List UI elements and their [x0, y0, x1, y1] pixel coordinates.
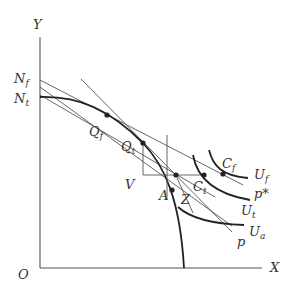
- trade-diagram: Y X O Nf Nt Qf Qt V A Z Ct Cf Uf p* Ut U…: [0, 0, 285, 290]
- label-a: A: [158, 188, 168, 203]
- label-q-t: Qt: [121, 139, 136, 156]
- label-v: V: [125, 177, 136, 192]
- label-u-t: Ut: [241, 203, 256, 220]
- label-c-t: Ct: [193, 179, 207, 196]
- label-q-f: Qf: [89, 124, 105, 141]
- x-axis-label: X: [269, 260, 280, 275]
- point-c-t: [201, 172, 206, 177]
- point-q-f: [104, 112, 109, 117]
- label-c-f: Cf: [222, 156, 237, 173]
- label-p-star: p*: [254, 186, 269, 201]
- indifference-curve-u-a: [178, 207, 244, 225]
- point-c-f: [220, 171, 225, 176]
- label-n-t: Nt: [13, 91, 29, 108]
- origin-label: O: [18, 267, 29, 282]
- label-n-f: Nf: [13, 71, 30, 88]
- label-p: p: [237, 234, 246, 249]
- point-a: [169, 187, 174, 192]
- point-z-intersect: [173, 172, 178, 177]
- tangent-line-steep: [81, 79, 232, 232]
- price-line-p: [40, 87, 232, 226]
- label-u-f: Uf: [254, 167, 270, 184]
- point-q-t: [140, 140, 145, 145]
- label-z: Z: [180, 192, 191, 207]
- y-axis-label: Y: [33, 17, 43, 32]
- price-line-p-star: [40, 80, 243, 185]
- production-frontier: [40, 97, 184, 268]
- label-u-a: Ua: [249, 224, 265, 241]
